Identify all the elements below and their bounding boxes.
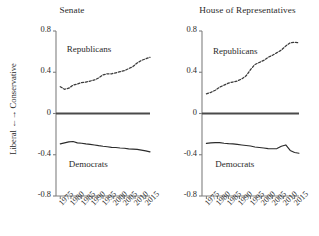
panel-senate: Senate Liberal ←→ Conservative 0.80.40-0… — [0, 0, 160, 236]
series-line-republicans — [60, 57, 150, 89]
y-tick-label: 0 — [193, 108, 197, 117]
y-tick-label: 0.4 — [41, 66, 51, 75]
y-tick-label: 0 — [47, 108, 51, 117]
series-annotation-republicans: Republicans — [67, 44, 112, 54]
y-tick-label: -0.4 — [38, 149, 51, 158]
panel-house-of-representatives: House of Representatives 0.80.40-0.4-0.8… — [160, 0, 319, 236]
series-line-democrats — [60, 142, 150, 152]
figure-party-polarization: Senate Liberal ←→ Conservative 0.80.40-0… — [0, 0, 319, 236]
series-annotation-democrats: Democrats — [215, 159, 254, 169]
series-annotation-republicans: Republicans — [213, 46, 258, 56]
y-tick-label: -0.8 — [38, 190, 51, 199]
y-tick-label: 0.8 — [187, 25, 197, 34]
y-tick-label: 0.4 — [187, 66, 197, 75]
series-annotation-democrats: Democrats — [69, 159, 108, 169]
y-tick-label: -0.8 — [184, 190, 197, 199]
series-line-democrats — [206, 143, 299, 154]
y-tick-label: 0.8 — [41, 25, 51, 34]
y-tick-label: -0.4 — [184, 149, 197, 158]
